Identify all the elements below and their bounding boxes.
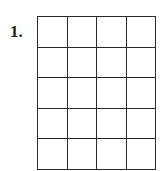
grid-cell	[127, 78, 157, 109]
grid-cell	[68, 109, 98, 140]
grid-cell	[68, 17, 98, 48]
grid-cell	[68, 139, 98, 170]
problem-number: 1.	[10, 23, 23, 40]
grid-cell	[38, 48, 68, 79]
grid-cell	[97, 139, 127, 170]
grid-cell	[38, 139, 68, 170]
grid-cell	[97, 109, 127, 140]
grid-cell	[38, 78, 68, 109]
grid-cell	[68, 78, 98, 109]
grid-cell	[38, 109, 68, 140]
grid-cell	[97, 17, 127, 48]
grid-cell	[97, 48, 127, 79]
grid-cell	[38, 17, 68, 48]
grid-cell	[127, 139, 157, 170]
grid-cell	[127, 17, 157, 48]
grid-cell	[127, 109, 157, 140]
grid-cell	[97, 78, 127, 109]
grid-cell	[68, 48, 98, 79]
answer-grid	[37, 16, 156, 170]
grid-cell	[127, 48, 157, 79]
